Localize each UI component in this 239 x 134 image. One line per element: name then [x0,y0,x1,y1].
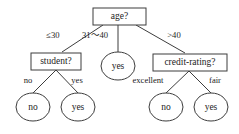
edge-credit-to-no [166,71,189,93]
node-leaf-student-yes-label: yes [72,102,85,112]
edge-label-credit-fair: fair [209,75,221,85]
decision-tree-diagram: age? ≤30 31～40 >40 student? yes credit-r… [0,0,239,134]
node-leaf-credit-fair-yes-label: yes [205,102,218,112]
edge-student-to-no [33,70,56,93]
edge-label-age-le-30: ≤30 [46,30,59,40]
edge-credit-to-yes [189,71,211,93]
node-leaf-student-no-label: no [28,102,38,112]
edge-label-age-gt-40: >40 [167,30,180,40]
node-age-label: age? [111,11,128,21]
node-leaf-credit-excellent-no-label: no [161,102,171,112]
edge-label-student-no: no [24,75,33,85]
edge-label-student-yes: yes [71,75,83,85]
node-credit-rating-label: credit-rating? [164,57,215,67]
tree-canvas: age? ≤30 31～40 >40 student? yes credit-r… [0,0,239,134]
edge-label-credit-excellent: excellent [132,75,164,85]
edge-label-age-31-40: 31～40 [82,30,108,40]
node-middle-leaf-yes-label: yes [112,61,125,71]
node-student-label: student? [40,56,72,66]
